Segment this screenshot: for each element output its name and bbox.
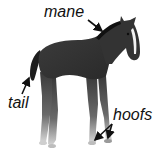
tail-arrow [22,78,29,94]
hoof-1 [39,141,47,145]
label-tail: tail [8,95,28,111]
mane-arrow [88,20,102,31]
foal-illustration [0,0,168,154]
label-mane: mane [44,4,84,20]
hoof-2 [48,144,56,148]
labeled-horse-diagram: mane tail hoofs [0,0,168,154]
hoof-3 [88,141,96,145]
front-leg-near [86,76,98,143]
hoof-4 [104,139,112,143]
eye [127,33,129,35]
label-hoofs: hoofs [113,107,152,123]
